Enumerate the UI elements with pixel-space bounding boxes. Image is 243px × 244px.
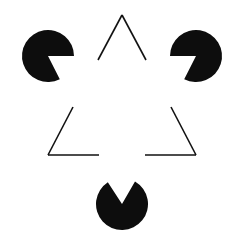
kanizsa-triangle-figure xyxy=(0,0,243,244)
figure-svg-canvas xyxy=(0,0,243,244)
